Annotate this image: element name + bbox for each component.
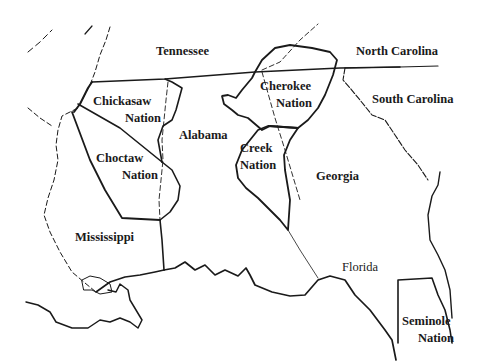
label-mississippi: Mississippi <box>75 231 134 244</box>
label-georgia: Georgia <box>316 170 359 183</box>
seminole-line1: Seminole <box>402 313 454 330</box>
louisiana-coast <box>26 284 142 328</box>
atlantic-coast <box>428 172 452 318</box>
label-florida: Florida <box>342 261 378 274</box>
label-seminole-nation: Seminole Nation <box>402 313 454 347</box>
label-cherokee-nation: Cherokee Nation <box>260 78 312 112</box>
choctaw-line1: Choctaw <box>96 150 158 167</box>
seminole-line2: Nation <box>402 330 454 347</box>
label-south-carolina: South Carolina <box>372 93 453 106</box>
choctaw-line2: Nation <box>96 167 158 184</box>
label-tennessee: Tennessee <box>156 45 209 58</box>
tennessee-border <box>92 67 400 82</box>
gulf-coast <box>164 262 396 360</box>
cherokee-line1: Cherokee <box>260 78 312 95</box>
creek-line2: Nation <box>240 157 280 174</box>
west-river-mid <box>28 108 52 126</box>
ga-fl-line <box>288 230 318 278</box>
choctaw-east <box>160 162 180 220</box>
west-river-top <box>28 30 52 52</box>
al-ms-border <box>160 220 164 270</box>
cherokee-line2: Nation <box>260 95 312 112</box>
ms-coast <box>96 270 164 292</box>
label-north-carolina: North Carolina <box>356 45 438 58</box>
chickasaw-line2: Nation <box>93 110 163 127</box>
creek-line1: Creek <box>240 140 280 157</box>
chickasaw-line1: Chickasaw <box>93 93 163 110</box>
label-chickasaw-nation: Chickasaw Nation <box>93 93 163 127</box>
label-creek-nation: Creek Nation <box>240 140 280 174</box>
sc-ga-border <box>343 68 428 180</box>
label-choctaw-nation: Choctaw Nation <box>96 150 158 184</box>
label-alabama: Alabama <box>179 129 228 142</box>
west-river-top2 <box>85 26 92 34</box>
